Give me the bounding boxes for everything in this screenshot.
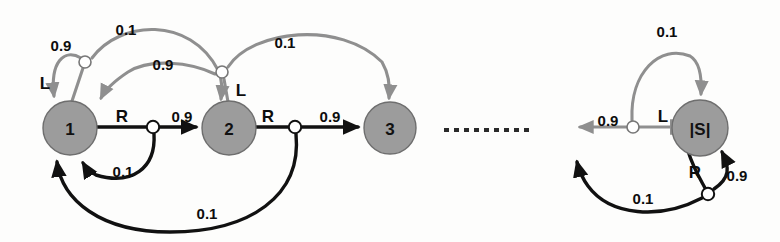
last-state-group: |S| xyxy=(577,53,728,212)
prob-label-s2-R-to-s1: 0.1 xyxy=(197,205,218,222)
prob-label-s2-L-to-s3: 0.1 xyxy=(275,34,296,51)
state-node-2-label: 2 xyxy=(224,120,233,139)
prob-label-s2-L-to-s1: 0.9 xyxy=(153,56,174,73)
action-label-s1-R: R xyxy=(116,107,128,126)
action-label-sN-R: R xyxy=(689,163,701,182)
edge-s1-L-stem xyxy=(72,68,83,101)
prob-label-sN-L-to-prev: 0.9 xyxy=(598,112,619,129)
state-node-1-label: 1 xyxy=(65,120,74,139)
junction-s2-L xyxy=(216,66,228,78)
state-node-last-label: |S| xyxy=(690,120,711,139)
junction-s2-R xyxy=(289,121,301,133)
junction-sN-R xyxy=(702,188,714,200)
edge-sN-R-to-sN xyxy=(714,152,727,189)
action-label-s1-L: L xyxy=(40,74,50,93)
prob-label-s1-R-to-s1: 0.1 xyxy=(113,163,134,180)
mdp-transition-diagram: 1 2 3 xyxy=(0,0,780,242)
prob-label-s1-L-to-s2: 0.1 xyxy=(116,21,137,38)
edge-s2-L-to-s3 xyxy=(228,35,389,98)
junction-s1-R xyxy=(147,121,159,133)
edge-s2-L-stem xyxy=(224,79,228,102)
action-label-s2-R: R xyxy=(262,107,274,126)
left-state-group: 1 2 3 xyxy=(43,29,416,232)
junction-sN-L xyxy=(627,121,639,133)
action-label-sN-L: L xyxy=(658,107,668,126)
state-node-3-label: 3 xyxy=(385,120,394,139)
edge-s2-R-to-s1 xyxy=(57,134,296,232)
prob-label-sN-R-to-prev: 0.1 xyxy=(633,190,654,207)
prob-label-s2-R-to-s3: 0.9 xyxy=(320,108,341,125)
prob-label-sN-R-to-sN: 0.9 xyxy=(727,167,748,184)
prob-label-sN-L-to-sN: 0.1 xyxy=(657,23,678,40)
junction-s1-L xyxy=(79,56,91,68)
prob-label-s1-L-to-s1: 0.9 xyxy=(51,37,72,54)
action-label-s2-L: L xyxy=(236,81,246,100)
prob-label-s1-R-to-s2: 0.9 xyxy=(172,108,193,125)
